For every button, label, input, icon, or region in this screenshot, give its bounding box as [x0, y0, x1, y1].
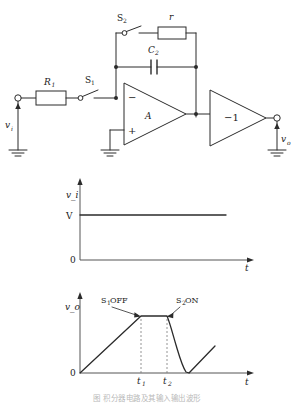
output-arrow-head [274, 123, 280, 129]
output-chart-xtick-t1-sub: 1 [142, 380, 146, 387]
annotation-s2-on-label: S [176, 296, 181, 305]
resistor-r1-label-sub: 1 [52, 81, 56, 88]
output-chart-y-arrow [77, 292, 82, 299]
input-voltage-label-sub: i [11, 125, 13, 132]
resistor-r-body [158, 27, 186, 39]
opamp-output-node [194, 112, 198, 116]
opamp-plus-sign: + [128, 125, 136, 136]
input-chart-x-arrow [247, 257, 254, 262]
annotation-s2-on-text: ON [185, 296, 199, 305]
input-chart-y-arrow [77, 178, 82, 185]
switch-s1-blade[interactable] [83, 90, 99, 97]
output-voltage-label: v [281, 134, 286, 144]
figure-caption: 图 积分器电路及其输入输出波形 [0, 392, 294, 404]
output-terminal-node [274, 115, 280, 121]
input-chart-ytick-0: 0 [70, 255, 76, 265]
resistor-r-label: r [169, 12, 174, 22]
switch-s2-blade[interactable] [127, 26, 142, 32]
capacitor-right-node [194, 65, 198, 69]
capacitor-label-sub: 2 [154, 49, 159, 56]
annotation-s1-off-label: S [101, 296, 106, 305]
input-chart-xlabel: t [245, 263, 249, 273]
resistor-r1-label: R [43, 77, 51, 87]
output-chart-xtick-t2-sub: 2 [167, 380, 172, 387]
output-voltage-label-sub: o [287, 139, 291, 146]
output-chart-x-arrow [247, 370, 254, 375]
inverter-gain-label: −1 [224, 112, 239, 123]
input-terminal-node [15, 95, 21, 101]
switch-s2-label-sub: 2 [123, 17, 127, 24]
output-chart-ylabel: v_o [65, 302, 81, 313]
input-chart-ylabel: v_i [66, 190, 79, 201]
input-arrow-head [15, 103, 21, 109]
annotation-s1-off-text: OFF [110, 296, 128, 305]
output-chart-xlabel: t [245, 377, 249, 387]
resistor-r1-body [36, 91, 66, 105]
output-chart-ytick-0: 0 [70, 368, 76, 378]
output-chart-series-line [80, 316, 215, 373]
input-waveform-chart: v_i t V 0 [0, 168, 294, 273]
input-voltage-label: v [5, 120, 10, 130]
output-chart-xtick-t2: t [163, 376, 167, 386]
output-waveform-chart: v_o t 0 t 1 t 2 S 1 OFF S 2 ON [0, 278, 294, 396]
annotation-s1-off-leader [112, 307, 136, 315]
switch-s1-label-sub: 1 [91, 79, 95, 86]
input-chart-ytick-V: V [65, 211, 73, 221]
opamp-minus-sign: − [128, 92, 136, 103]
opamp-gain-label: A [144, 111, 152, 121]
figure-container: v i R 1 S 1 S 2 r C 2 − + A −1 [0, 0, 294, 405]
output-chart-xtick-t1: t [137, 376, 141, 386]
circuit-diagram: v i R 1 S 1 S 2 r C 2 − + A −1 [0, 0, 294, 170]
capacitor-label: C [148, 45, 155, 55]
